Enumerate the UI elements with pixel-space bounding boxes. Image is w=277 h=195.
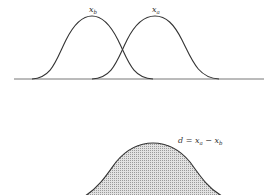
curve-xb [32,16,153,79]
distribution-diagram: xb xa d = xa − xb [0,0,277,195]
label-xb: xb [89,5,98,15]
difference-distribution-shaded [85,143,222,195]
label-xa: xa [152,5,160,15]
bottom-panel: d = xa − xb [85,136,223,195]
top-panel: xb xa [14,5,264,79]
label-difference: d = xa − xb [178,136,223,146]
curve-xa [92,16,219,79]
